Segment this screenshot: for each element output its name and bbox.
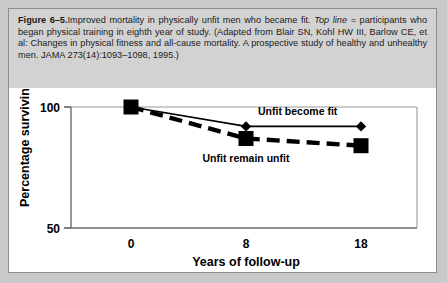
chart-area: Percentage surviving 100 50 0 8 18 Years…	[9, 88, 436, 272]
figure-caption-emphasis: Top line =	[314, 15, 356, 25]
x-tick-label-0: 0	[128, 237, 135, 251]
data-point-become-fit-8	[241, 121, 251, 131]
figure-caption-block: Figure 6–5.Improved mortality in physica…	[9, 9, 436, 88]
data-point-remain-unfit-0	[124, 100, 139, 115]
x-tick-label-18: 18	[354, 237, 368, 251]
y-tick-label-50: 50	[47, 222, 61, 236]
data-point-remain-unfit-8	[239, 131, 254, 146]
y-axis-title: Percentage surviving	[18, 88, 32, 207]
figure-caption-text: Figure 6–5.Improved mortality in physica…	[18, 15, 427, 61]
figure-number: Figure 6–5.	[18, 15, 68, 25]
y-tick-label-100: 100	[40, 101, 60, 115]
data-point-remain-unfit-18	[354, 138, 369, 153]
series-label-unfit-become-fit: Unfit become fit	[258, 105, 338, 117]
figure-page-panel: Figure 6–5.Improved mortality in physica…	[8, 8, 437, 273]
figure-caption-main: Improved mortality in physically unfit m…	[68, 15, 311, 25]
x-tick-label-8: 8	[243, 237, 250, 251]
x-axis-title: Years of follow-up	[192, 255, 300, 269]
series-label-unfit-remain-unfit: Unfit remain unfit	[203, 152, 290, 164]
data-point-become-fit-18	[356, 121, 366, 131]
figure-root: Figure 6–5.Improved mortality in physica…	[0, 0, 447, 283]
survival-line-chart: Percentage surviving 100 50 0 8 18 Years…	[9, 88, 436, 272]
